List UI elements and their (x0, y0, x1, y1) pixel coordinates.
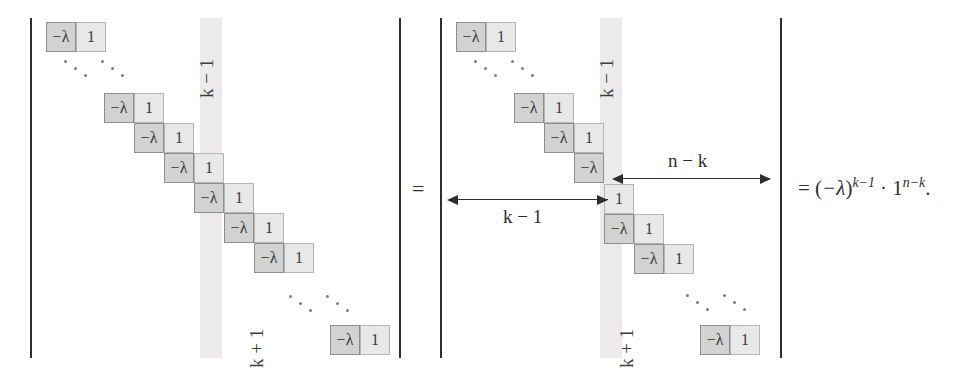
cell-lambda: −λ (456, 22, 486, 52)
cell-one: 1 (730, 325, 760, 355)
n-minus-k-arrow-head-right (760, 174, 771, 184)
determinant-figure: −λ 1 −λ 1 −λ 1 −λ 1 −λ 1 −λ 1 −λ 1 −λ 1 … (0, 0, 972, 376)
n-minus-k-arrow-line (618, 178, 770, 179)
ellipsis-diagonal-icon (288, 293, 322, 315)
cell-lambda: −λ (104, 93, 134, 123)
cell-one: 1 (574, 123, 604, 153)
ellipsis-diagonal-icon (685, 292, 719, 314)
cell-one: 1 (164, 123, 194, 153)
cell-lambda: −λ (164, 153, 194, 183)
right-matrix-top-label: k − 1 (596, 59, 618, 98)
left-matrix-bottom-label: k + 1 (246, 329, 268, 368)
final-exponent-1: k−1 (852, 175, 874, 190)
left-matrix-open-bar (30, 18, 32, 358)
cell-one: 1 (664, 244, 694, 274)
final-second-base: 1 (892, 176, 903, 200)
cell-lambda: −λ (330, 325, 360, 355)
final-dot-operator: · (880, 176, 887, 200)
ellipsis-diagonal-icon (100, 58, 134, 80)
cell-one: 1 (544, 93, 574, 123)
n-minus-k-arrow-head-left (612, 174, 623, 184)
cell-lambda: −λ (514, 93, 544, 123)
cell-lambda: −λ (46, 22, 76, 52)
ellipsis-diagonal-icon (722, 292, 756, 314)
ellipsis-diagonal-icon (473, 58, 507, 80)
cell-lambda: −λ (634, 244, 664, 274)
cell-one: 1 (224, 183, 254, 213)
final-equals-sign: = (798, 176, 810, 200)
k-minus-1-arrow-line (452, 199, 608, 200)
ellipsis-diagonal-icon (325, 293, 359, 315)
k-minus-1-arrow-label: k − 1 (503, 206, 542, 228)
cell-one: 1 (134, 93, 164, 123)
cell-one: 1 (254, 213, 284, 243)
cell-lambda: −λ (224, 213, 254, 243)
final-period: . (925, 176, 930, 200)
left-matrix-close-bar (399, 18, 401, 358)
right-matrix-bottom-label: k + 1 (616, 329, 638, 368)
cell-one: 1 (360, 325, 390, 355)
left-matrix-top-label: k − 1 (196, 59, 218, 98)
cell-lambda: −λ (134, 123, 164, 153)
k-minus-1-arrow-head-left (447, 195, 458, 205)
cell-one: 1 (76, 22, 106, 52)
cell-one: 1 (486, 22, 516, 52)
final-base: −λ (822, 176, 845, 200)
cell-lambda: −λ (194, 183, 224, 213)
cell-lambda: −λ (254, 243, 284, 273)
final-exponent-2: n−k (903, 175, 925, 190)
middle-equals-sign: = (412, 176, 424, 202)
cell-lambda: −λ (700, 325, 730, 355)
ellipsis-diagonal-icon (63, 58, 97, 80)
ellipsis-diagonal-icon (510, 58, 544, 80)
n-minus-k-arrow-label: n − k (668, 150, 707, 172)
cell-one: 1 (634, 214, 664, 244)
cell-one: 1 (284, 243, 314, 273)
k-minus-1-arrow-head-right (597, 195, 608, 205)
right-matrix-close-bar (780, 18, 782, 358)
cell-lambda: −λ (604, 214, 634, 244)
cell-one: 1 (604, 184, 634, 214)
right-matrix-open-bar (440, 18, 442, 358)
final-result-expression: = (−λ)k−1 · 1n−k. (798, 175, 931, 201)
cell-lambda: −λ (544, 123, 574, 153)
cell-one: 1 (194, 153, 224, 183)
cell-lambda: −λ (574, 153, 604, 183)
